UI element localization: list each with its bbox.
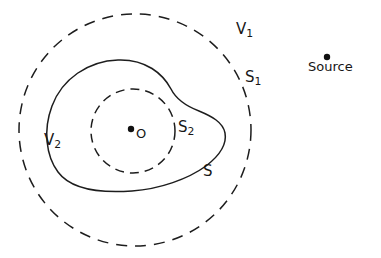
- label-middle-region-v2: V2: [44, 133, 61, 151]
- label-middle-region-base: V: [44, 131, 54, 149]
- label-outer-region-subscript: 1: [246, 27, 253, 40]
- label-outer-region-base: V: [236, 20, 246, 38]
- outer-dashed-circle-s1: [19, 14, 251, 246]
- label-middle-region-subscript: 2: [54, 138, 61, 151]
- label-outer-surface-subscript: 1: [255, 75, 262, 88]
- label-origin-base: O: [136, 126, 146, 141]
- label-middle-surface-s: S: [203, 164, 213, 179]
- label-inner-surface-base: S: [178, 118, 188, 136]
- label-middle-surface-base: S: [203, 162, 213, 180]
- label-outer-region-v1: V1: [236, 22, 254, 40]
- figure-root: V1 S1 S2 V2 S O Source: [0, 0, 381, 258]
- label-outer-surface-s1: S1: [245, 70, 262, 88]
- label-origin-o: O: [136, 127, 146, 140]
- label-source-text: Source: [308, 59, 353, 74]
- label-outer-surface-base: S: [245, 68, 255, 86]
- label-inner-surface-subscript: 2: [188, 125, 195, 138]
- label-inner-surface-s2: S2: [178, 120, 194, 138]
- origin-point-dot: [128, 126, 134, 132]
- label-source: Source: [308, 60, 353, 73]
